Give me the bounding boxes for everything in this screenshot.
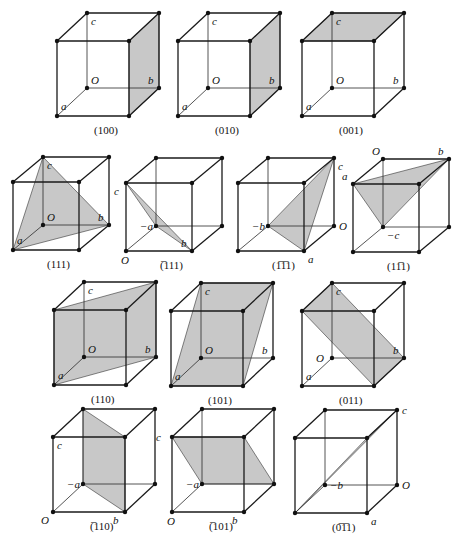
lattice-point: [447, 225, 451, 229]
cube-edge: [244, 484, 274, 512]
plane-011: [302, 283, 404, 386]
unit-cell-110: cOba(110): [52, 280, 158, 406]
lattice-point: [154, 156, 158, 160]
axis-label-c: c: [336, 15, 341, 27]
lattice-point: [300, 384, 304, 388]
lattice-point: [372, 384, 376, 388]
cube-edge: [244, 409, 274, 437]
lattice-point: [220, 156, 224, 160]
axis-label-O: O: [316, 352, 324, 364]
cube-edge: [419, 227, 449, 252]
lattice-point: [154, 355, 158, 359]
cube-edge: [367, 485, 397, 513]
unit-cell-0-11: c−bOa(0̅1̅1): [293, 404, 410, 534]
axis-label-b: b: [181, 237, 187, 249]
axis-label-c: c: [205, 285, 210, 297]
lattice-point: [300, 39, 304, 43]
cube-edge: [125, 409, 155, 437]
lattice-point: [41, 155, 45, 159]
lattice-point: [241, 384, 245, 388]
axis-label-a: a: [371, 515, 377, 527]
axis-label-c: c: [212, 15, 217, 27]
cube-edge: [178, 13, 208, 41]
lattice-point: [372, 39, 376, 43]
lattice-point: [293, 511, 297, 515]
axis-label-a: a: [342, 170, 348, 182]
axis-label-neg-b: −b: [252, 220, 265, 232]
cube-edge: [192, 226, 222, 251]
lattice-point: [123, 510, 127, 514]
unit-cell-11-1: Oba−c(11̅1): [342, 145, 451, 273]
lattice-point: [77, 248, 81, 252]
lattice-point: [266, 156, 270, 160]
lattice-point: [51, 435, 55, 439]
lattice-point: [323, 483, 327, 487]
lattice-point: [124, 181, 128, 185]
cube-edge: [374, 88, 404, 116]
lattice-point: [351, 182, 355, 186]
miller-index-caption: (100): [94, 124, 118, 137]
plane-111: [13, 157, 109, 250]
lattice-point: [417, 182, 421, 186]
miller-index-caption: (0̅1̅1): [332, 521, 356, 534]
unit-cell-101: cOba(101): [169, 281, 275, 407]
cube-edge: [53, 409, 83, 437]
lattice-point: [52, 308, 56, 312]
axis-label-O: O: [91, 74, 99, 86]
lattice-point: [300, 309, 304, 313]
hidden-edge: [353, 227, 383, 252]
lattice-point: [81, 407, 85, 411]
axis-label-a: a: [58, 369, 64, 381]
axis-label-b: b: [269, 74, 275, 86]
lattice-point: [302, 249, 306, 253]
lattice-point: [170, 510, 174, 514]
axis-label-O: O: [336, 74, 344, 86]
plane--101: [172, 437, 274, 484]
lattice-point: [157, 11, 161, 15]
lattice-point: [190, 249, 194, 253]
lattice-point: [330, 86, 334, 90]
lattice-point: [330, 356, 334, 360]
lattice-point: [351, 250, 355, 254]
lattice-point: [266, 224, 270, 228]
lattice-point: [332, 156, 336, 160]
axis-label-a: a: [308, 253, 314, 265]
lattice-point: [300, 114, 304, 118]
lattice-point: [293, 436, 297, 440]
lattice-point: [402, 281, 406, 285]
axis-label-b: b: [262, 344, 268, 356]
axis-label-neg-a: −a: [67, 478, 80, 490]
lattice-point: [11, 248, 15, 252]
plane-100: [129, 13, 159, 116]
lattice-point: [190, 181, 194, 185]
axis-label-a: a: [182, 100, 188, 112]
lattice-point: [124, 383, 128, 387]
axis-label-b: b: [145, 343, 151, 355]
lattice-point: [123, 435, 127, 439]
lattice-point: [169, 309, 173, 313]
axis-label-O: O: [205, 344, 213, 356]
axis-label-c: c: [47, 159, 52, 171]
cube-edge: [374, 283, 404, 311]
axis-label-neg-b: −b: [330, 479, 343, 491]
cube-edge: [295, 410, 325, 438]
lattice-point: [402, 11, 406, 15]
lattice-point: [55, 114, 59, 118]
axis-label-a: a: [17, 234, 23, 246]
cube-edge: [79, 157, 109, 182]
miller-index-caption: (101): [208, 394, 232, 407]
lattice-point: [81, 482, 85, 486]
axis-label-b: b: [148, 74, 154, 86]
axis-label-O: O: [88, 343, 96, 355]
cube-edge: [57, 13, 87, 41]
lattice-point: [330, 11, 334, 15]
hidden-edge: [295, 485, 325, 513]
lattice-point: [11, 180, 15, 184]
axis-label-a: a: [306, 370, 312, 382]
miller-index-caption: (1̅1̅1): [272, 259, 295, 272]
lattice-point: [200, 482, 204, 486]
axis-label-b: b: [438, 145, 444, 157]
crystal-planes-figure: cOba(100)cOba(010)cOba(001)cOba(111)c−ab…: [0, 0, 463, 545]
lattice-point: [153, 482, 157, 486]
lattice-point: [82, 280, 86, 284]
